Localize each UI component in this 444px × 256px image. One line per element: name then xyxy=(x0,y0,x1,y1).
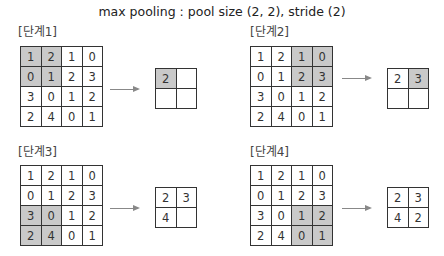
input-matrix: 1210012330122401 xyxy=(250,165,333,246)
matrix-cell: 3 xyxy=(21,87,42,107)
matrix-cell: 0 xyxy=(21,186,42,206)
matrix-cell: 1 xyxy=(292,206,313,226)
matrix-cell: 3 xyxy=(251,87,272,107)
output-cell xyxy=(388,89,409,109)
matrix-cell: 0 xyxy=(62,226,83,246)
step-label: [단계3] xyxy=(18,142,57,159)
output-cell: 4 xyxy=(388,208,409,228)
matrix-cell: 1 xyxy=(62,206,83,226)
output-cell: 2 xyxy=(156,188,177,208)
output-cell: 2 xyxy=(156,69,177,89)
output-matrix: 2 xyxy=(155,68,197,109)
matrix-cell: 2 xyxy=(82,206,103,226)
matrix-cell: 2 xyxy=(62,67,83,87)
matrix-cell: 1 xyxy=(82,107,103,127)
matrix-cell: 1 xyxy=(251,47,272,67)
output-cell: 4 xyxy=(156,208,177,228)
matrix-cell: 2 xyxy=(251,107,272,127)
matrix-cell: 2 xyxy=(251,226,272,246)
matrix-cell: 2 xyxy=(62,186,83,206)
output-cell xyxy=(176,208,197,228)
output-cell xyxy=(408,89,429,109)
matrix-cell: 1 xyxy=(271,67,292,87)
matrix-cell: 0 xyxy=(292,226,313,246)
matrix-cell: 0 xyxy=(82,47,103,67)
arrow-right-icon xyxy=(110,208,138,209)
matrix-cell: 2 xyxy=(21,107,42,127)
matrix-cell: 3 xyxy=(21,206,42,226)
output-cell: 2 xyxy=(388,188,409,208)
matrix-cell: 3 xyxy=(82,67,103,87)
matrix-cell: 1 xyxy=(292,87,313,107)
input-matrix: 1210012330122401 xyxy=(20,46,103,127)
matrix-cell: 1 xyxy=(62,166,83,186)
arrow-right-icon xyxy=(342,78,370,79)
matrix-cell: 2 xyxy=(312,206,333,226)
matrix-cell: 2 xyxy=(292,67,313,87)
matrix-cell: 4 xyxy=(271,226,292,246)
matrix-cell: 0 xyxy=(82,166,103,186)
matrix-cell: 2 xyxy=(82,87,103,107)
output-cell: 2 xyxy=(388,69,409,89)
matrix-cell: 3 xyxy=(82,186,103,206)
matrix-cell: 0 xyxy=(292,107,313,127)
matrix-cell: 0 xyxy=(312,166,333,186)
matrix-cell: 1 xyxy=(292,166,313,186)
matrix-cell: 4 xyxy=(41,226,62,246)
matrix-cell: 3 xyxy=(312,67,333,87)
matrix-cell: 0 xyxy=(251,186,272,206)
matrix-cell: 4 xyxy=(271,107,292,127)
matrix-cell: 3 xyxy=(312,186,333,206)
output-cell: 3 xyxy=(408,69,429,89)
output-matrix: 2342 xyxy=(387,187,429,228)
matrix-cell: 3 xyxy=(251,206,272,226)
matrix-cell: 2 xyxy=(41,47,62,67)
output-matrix: 23 xyxy=(387,68,429,109)
arrow-right-icon xyxy=(110,89,138,90)
matrix-cell: 2 xyxy=(292,186,313,206)
matrix-cell: 1 xyxy=(62,87,83,107)
output-cell xyxy=(156,89,177,109)
matrix-cell: 1 xyxy=(271,186,292,206)
matrix-cell: 0 xyxy=(271,206,292,226)
matrix-cell: 1 xyxy=(292,47,313,67)
matrix-cell: 2 xyxy=(271,166,292,186)
output-cell xyxy=(176,89,197,109)
matrix-cell: 2 xyxy=(41,166,62,186)
matrix-cell: 0 xyxy=(62,107,83,127)
matrix-cell: 0 xyxy=(41,206,62,226)
matrix-cell: 0 xyxy=(21,67,42,87)
output-matrix: 234 xyxy=(155,187,197,228)
output-cell: 2 xyxy=(408,208,429,228)
diagram-title: max pooling : pool size (2, 2), stride (… xyxy=(0,4,444,19)
matrix-cell: 2 xyxy=(312,87,333,107)
matrix-cell: 1 xyxy=(41,67,62,87)
matrix-cell: 1 xyxy=(21,166,42,186)
matrix-cell: 1 xyxy=(251,166,272,186)
input-matrix: 1210012330122401 xyxy=(20,165,103,246)
matrix-cell: 1 xyxy=(312,107,333,127)
matrix-cell: 1 xyxy=(82,226,103,246)
matrix-cell: 1 xyxy=(312,226,333,246)
matrix-cell: 2 xyxy=(271,47,292,67)
matrix-cell: 1 xyxy=(41,186,62,206)
matrix-cell: 0 xyxy=(271,87,292,107)
output-cell: 3 xyxy=(176,188,197,208)
step-label: [단계4] xyxy=(250,142,289,159)
input-matrix: 1210012330122401 xyxy=(250,46,333,127)
matrix-cell: 4 xyxy=(41,107,62,127)
output-cell xyxy=(176,69,197,89)
matrix-cell: 2 xyxy=(21,226,42,246)
matrix-cell: 1 xyxy=(62,47,83,67)
matrix-cell: 0 xyxy=(251,67,272,87)
arrow-right-icon xyxy=(342,208,370,209)
step-label: [단계1] xyxy=(18,22,57,39)
matrix-cell: 0 xyxy=(41,87,62,107)
matrix-cell: 0 xyxy=(312,47,333,67)
output-cell: 3 xyxy=(408,188,429,208)
matrix-cell: 1 xyxy=(21,47,42,67)
step-label: [단계2] xyxy=(250,22,289,39)
